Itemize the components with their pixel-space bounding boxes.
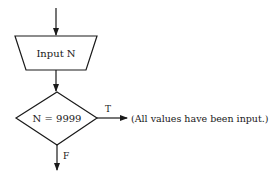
- false-branch-label: F: [63, 151, 69, 161]
- true-branch-result: (All values have been input.): [131, 113, 269, 124]
- decision-label: N = 9999: [33, 113, 82, 124]
- flowchart-diagram: Input N N = 9999 T (All values have been…: [0, 0, 274, 172]
- true-branch-label: T: [105, 104, 111, 114]
- input-box-label: Input N: [36, 48, 75, 59]
